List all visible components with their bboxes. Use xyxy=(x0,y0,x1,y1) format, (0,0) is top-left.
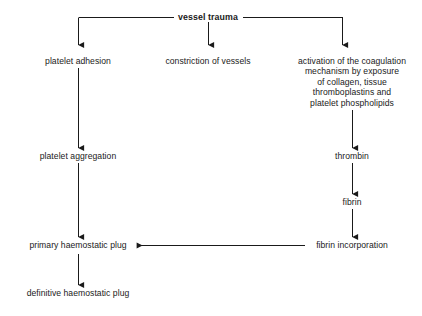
node-constriction-of-vessels: constriction of vessels xyxy=(165,56,250,66)
node-platelet-adhesion: platelet adhesion xyxy=(45,56,111,66)
node-vessel-trauma: vessel trauma xyxy=(178,12,238,22)
activation-line-3: of collagen, tissue xyxy=(282,77,422,87)
node-fibrin: fibrin xyxy=(343,197,362,207)
activation-line-4: thromboplastins and xyxy=(282,87,422,97)
node-definitive-haemostatic-plug: definitive haemostatic plug xyxy=(27,288,130,298)
activation-line-5: platelet phospholipids xyxy=(282,98,422,108)
node-thrombin: thrombin xyxy=(335,151,369,161)
node-primary-haemostatic-plug: primary haemostatic plug xyxy=(29,240,126,250)
node-activation-of-coagulation: activation of the coagulation mechanism … xyxy=(282,56,422,108)
node-platelet-aggregation: platelet aggregation xyxy=(40,151,117,161)
activation-line-1: activation of the coagulation xyxy=(282,56,422,66)
activation-line-2: mechanism by exposure xyxy=(282,66,422,76)
node-fibrin-incorporation: fibrin incorporation xyxy=(316,240,388,250)
flowchart-diagram: vessel trauma platelet adhesion constric… xyxy=(0,0,422,316)
